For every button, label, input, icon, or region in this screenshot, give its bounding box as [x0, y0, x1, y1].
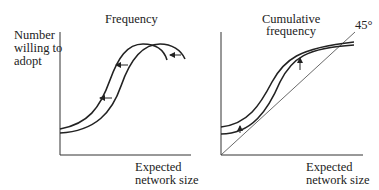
right-title-line2: frequency: [266, 25, 316, 38]
45-degree-line: [221, 32, 355, 155]
left-panel: [60, 32, 191, 155]
left-x-label-line2: network size: [135, 174, 199, 187]
angle-label: 45°: [355, 19, 373, 32]
right-curve-shifted: [221, 42, 354, 127]
left-curve-shifted: [60, 44, 167, 129]
left-title: Frequency: [105, 13, 158, 26]
right-panel: [221, 32, 363, 155]
left-y-label-line3: adopt: [14, 55, 42, 68]
right-x-label-line2: network size: [306, 174, 370, 187]
